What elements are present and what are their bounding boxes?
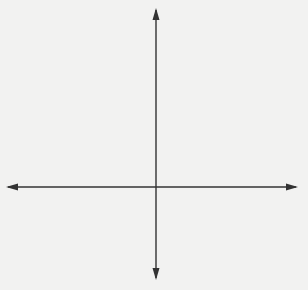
y-axis-up-arrow-icon: [153, 8, 160, 20]
x-axis-right-arrow-icon: [286, 184, 298, 191]
x-axis-left-arrow-icon: [6, 184, 18, 191]
coordinate-plane: [0, 0, 308, 290]
axes: [6, 8, 298, 280]
y-axis-down-arrow-icon: [153, 268, 160, 280]
